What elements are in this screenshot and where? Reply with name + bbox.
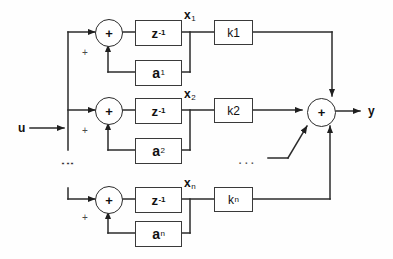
wire-layer [0,0,393,259]
delay-block-exponent: -1 [158,29,166,37]
feedback-block-row-2[interactable]: a2 [135,138,182,164]
feedback-block-base: a [152,227,160,241]
state-label-base: x [184,87,191,101]
delay-block-exponent: -1 [158,196,166,204]
vertical-ellipsis: ⋮ [64,157,72,170]
input-label-u: u [18,121,25,135]
feedback-block-row-1[interactable]: a1 [135,60,182,86]
delay-block-row-1[interactable]: z-1 [135,20,182,46]
feedback-block-row-n[interactable]: an [135,221,182,247]
state-label-base: x [184,176,191,190]
state-label-base: x [184,8,191,22]
summing-junction-symbol: + [105,27,113,40]
summing-junction-row-2[interactable]: + [95,97,123,125]
summing-junction-row-n[interactable]: + [95,186,123,214]
state-label-xn: xn [184,176,196,191]
delay-block-row-2[interactable]: z-1 [135,98,182,124]
gain-block-subscript: n [234,196,239,204]
feedback-block-base: a [152,66,160,80]
state-label-x1: x1 [184,8,196,23]
summing-junction-row-1[interactable]: + [95,19,123,47]
state-label-subscript: 2 [191,93,196,102]
sign-mark-row-n: + [82,212,88,223]
feedback-block-subscript: 1 [160,69,165,77]
wire-ellipsis-diagonal [288,126,307,158]
gain-block-row-1[interactable]: k1 [214,20,253,45]
delay-block-exponent: -1 [158,107,166,115]
block-diagram-canvas: + + + + + + + z-1 z-1 z-1 k1 k2 kn a1 a2… [0,0,393,259]
sign-mark-row-2: + [82,125,88,136]
horizontal-ellipsis: ... [238,150,257,167]
summing-junction-symbol: + [105,194,113,207]
gain-block-label: k1 [227,27,240,39]
gain-block-label: k2 [227,105,240,117]
state-label-subscript: n [191,182,196,191]
summing-junction-output[interactable]: + [307,98,336,127]
summing-junction-symbol: + [318,106,326,119]
summing-junction-symbol: + [105,105,113,118]
feedback-block-subscript: 2 [160,147,165,155]
gain-block-row-2[interactable]: k2 [214,98,253,123]
state-label-subscript: 1 [191,14,196,23]
gain-block-row-n[interactable]: kn [214,187,253,212]
feedback-block-subscript: n [160,230,165,238]
output-label-y: y [368,104,375,118]
sign-mark-row-1: + [82,47,88,58]
delay-block-row-n[interactable]: z-1 [135,187,182,213]
feedback-block-base: a [152,144,160,158]
state-label-x2: x2 [184,87,196,102]
